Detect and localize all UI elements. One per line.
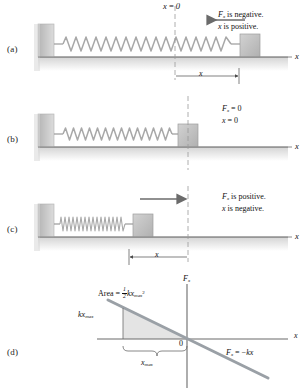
figure-spring-force: (a) x = 0 Fx is negative. x is positive. bbox=[0, 0, 308, 392]
chart-xmax-label: xmax bbox=[141, 358, 153, 367]
chart-origin-label: 0 bbox=[179, 339, 183, 348]
chart-kxmax-label: kxmax bbox=[78, 310, 93, 319]
chart-y-axis-label: Fx bbox=[183, 274, 190, 283]
force-displacement-chart bbox=[0, 0, 308, 392]
chart-equation-label: Fx = −kx bbox=[226, 348, 253, 357]
chart-x-axis-label: x bbox=[294, 331, 298, 340]
chart-area-annotation: Area = 12kxmax2 bbox=[98, 287, 145, 300]
chart-xmax-brace bbox=[123, 346, 187, 356]
